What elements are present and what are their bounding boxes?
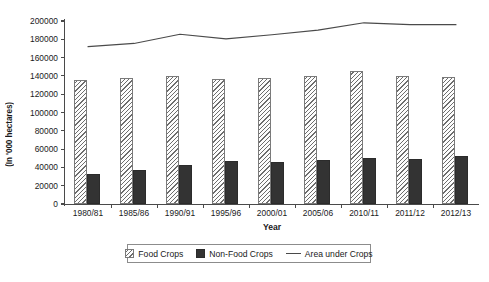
x-axis-label: 1995/96: [211, 208, 241, 218]
y-axis-tick-label: 140000: [30, 71, 61, 81]
plot-area: 2000001800001600001400001200001000008000…: [65, 21, 479, 204]
x-axis-label: 2010/11: [349, 208, 379, 218]
legend-label-area-under-crops: Area under Crops: [305, 249, 373, 259]
filled-square-icon: [196, 249, 205, 258]
y-axis-tick-label: 40000: [35, 162, 61, 172]
x-axis-line: [64, 204, 479, 205]
x-axis-label: 2005/06: [303, 208, 333, 218]
y-axis-title: (In '000 hectares): [2, 78, 16, 190]
x-axis-label: 2011/12: [395, 208, 425, 218]
legend-item-food-crops: Food Crops: [125, 249, 183, 259]
x-axis-label: 2012/13: [441, 208, 471, 218]
y-axis-tick-label: 180000: [30, 34, 61, 44]
hatched-square-icon: [125, 249, 134, 258]
y-axis-title-label: (In '000 hectares): [5, 102, 14, 167]
y-axis-tick-label: 200000: [30, 16, 61, 26]
chart-figure: (In '000 hectares) 200000180000160000140…: [0, 0, 489, 282]
y-axis-tick-label: 100000: [30, 108, 61, 118]
legend-item-non-food-crops: Non-Food Crops: [196, 249, 273, 259]
y-axis-tick-label: 60000: [35, 144, 61, 154]
legend-label-food-crops: Food Crops: [138, 249, 183, 259]
area-under-crops-line-series: [65, 21, 479, 204]
x-axis-label: 2000/01: [257, 208, 287, 218]
x-axis-label: 1985/86: [119, 208, 149, 218]
y-axis-tick-label: 20000: [35, 181, 61, 191]
y-axis-tick-label: 0: [53, 199, 61, 209]
chart-legend: Food Crops Non-Food Crops Area under Cro…: [127, 244, 371, 263]
legend-item-area-under-crops: Area under Crops: [286, 249, 373, 259]
figure-caption: [0, 276, 489, 282]
line-path: [88, 23, 456, 47]
x-axis-label: 1990/91: [165, 208, 195, 218]
legend-label-non-food-crops: Non-Food Crops: [209, 249, 273, 259]
line-segment-icon: [286, 253, 301, 254]
x-axis-title: Year: [65, 222, 479, 232]
y-axis-tick-label: 80000: [35, 126, 61, 136]
x-axis-label: 1980/81: [73, 208, 103, 218]
x-axis-label-container: 1980/811985/861990/911995/962000/012005/…: [65, 208, 479, 222]
y-axis-tick-label: 160000: [30, 53, 61, 63]
y-axis-tick-label: 120000: [30, 89, 61, 99]
